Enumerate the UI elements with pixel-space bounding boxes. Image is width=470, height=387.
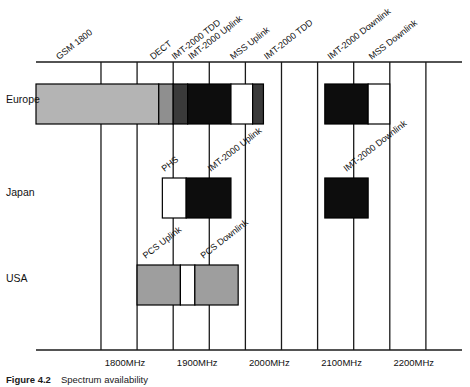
axis-tick-label: 2200MHz: [393, 357, 434, 368]
row-labels: EuropeJapanUSA: [6, 93, 40, 284]
callout-japan-1: IMT-2000 Uplink: [206, 125, 264, 174]
axis-tick-label: 2100MHz: [321, 357, 362, 368]
spectrum-band: [162, 178, 186, 218]
callout-labels: GSM 1800DECTIMT-2000 TDDIMT-2000 UplinkM…: [54, 6, 419, 261]
spectrum-band: [188, 84, 231, 124]
spectrum-band: [231, 84, 253, 124]
row-label-usa: USA: [6, 272, 28, 284]
spectrum-band: [36, 84, 159, 124]
spectrum-band: [186, 178, 231, 218]
row-label-japan: Japan: [6, 186, 35, 198]
callout-top-5: IMT-2000 TDD: [262, 17, 315, 61]
spectrum-availability-figure: EuropeJapanUSA 1800MHz1900MHz2000MHz2100…: [0, 0, 470, 387]
callout-japan-2: IMT-2000 Downlink: [342, 118, 409, 174]
axis-tick-labels: 1800MHz1900MHz2000MHz2100MHz2200MHz: [105, 357, 435, 368]
axis-tick-label: 2000MHz: [249, 357, 290, 368]
figure-caption-number: Figure 4.2: [6, 374, 51, 385]
spectrum-band: [368, 84, 390, 124]
axis-tick-label: 1900MHz: [177, 357, 218, 368]
spectrum-chart: EuropeJapanUSA 1800MHz1900MHz2000MHz2100…: [0, 0, 470, 387]
spectrum-band: [325, 84, 368, 124]
bar-segments: [36, 84, 390, 305]
callout-usa-0: PCS Uplink: [141, 224, 184, 261]
figure-caption-text: Spectrum availability: [61, 374, 148, 385]
axis-tick-label: 1800MHz: [105, 357, 146, 368]
figure-caption: Figure 4.2Spectrum availability: [6, 374, 148, 385]
callout-usa-1: PCS Downlink: [199, 217, 251, 261]
spectrum-band: [180, 265, 194, 305]
row-label-europe: Europe: [6, 93, 40, 105]
spectrum-band: [325, 178, 368, 218]
callout-top-0: GSM 1800: [54, 27, 94, 61]
spectrum-band: [253, 84, 264, 124]
spectrum-band: [195, 265, 238, 305]
callout-top-1: DECT: [148, 38, 174, 61]
callout-japan-0: PHS: [160, 154, 181, 173]
spectrum-band: [137, 265, 180, 305]
spectrum-band: [173, 84, 187, 124]
spectrum-band: [159, 84, 173, 124]
